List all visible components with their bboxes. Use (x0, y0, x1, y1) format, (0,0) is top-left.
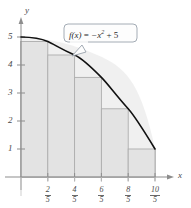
x-axis-arrow (167, 175, 174, 180)
function-arg: (x) (72, 30, 82, 40)
y-tick-label-4: 4 (8, 60, 13, 69)
y-axis-arrow (19, 17, 24, 24)
function-exponent: 2 (101, 29, 104, 35)
y-tick-label-1: 1 (8, 144, 13, 153)
function-constant: + 5 (106, 30, 118, 40)
y-tick-label-5: 5 (8, 32, 13, 41)
fraction-numerator: 6 (98, 186, 104, 194)
rectangle-extension-lines (21, 177, 155, 196)
fraction-numerator: 8 (125, 186, 131, 194)
y-axis-label: y (25, 6, 29, 15)
fraction-denominator: 5 (98, 196, 104, 204)
fraction-denominator: 5 (125, 196, 131, 204)
fraction-numerator: 4 (72, 186, 78, 194)
x-tick-label-10-5: 10 5 (150, 186, 160, 205)
fraction-denominator: 5 (150, 196, 160, 204)
x-tick-label-2-5: 2 5 (45, 186, 51, 205)
function-label: f(x) = −x2 + 5 (69, 29, 118, 40)
y-tick-label-3: 3 (8, 88, 13, 97)
y-tick-label-2: 2 (8, 116, 13, 125)
function-term: −x (91, 30, 101, 40)
equals-sign: = (84, 30, 89, 40)
fraction-denominator: 5 (72, 196, 78, 204)
fraction-denominator: 5 (45, 196, 51, 204)
riemann-sum-figure: f(x) = −x2 + 5 y x 5 4 3 2 1 2 5 4 5 6 5… (0, 0, 191, 208)
x-axis-label: x (178, 171, 182, 180)
area-under-curve (21, 37, 155, 177)
x-tick-label-4-5: 4 5 (72, 186, 78, 205)
fraction-numerator: 2 (45, 186, 51, 194)
x-tick-label-8-5: 8 5 (125, 186, 131, 205)
x-tick-label-6-5: 6 5 (98, 186, 104, 205)
fraction-numerator: 10 (150, 186, 160, 194)
